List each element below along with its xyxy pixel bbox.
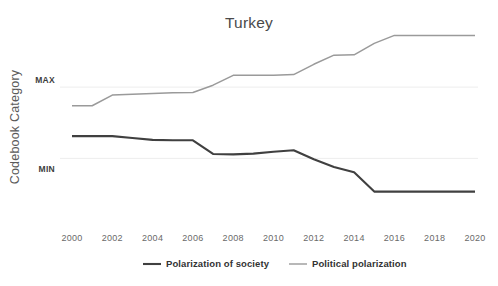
x-tick-label-2008: 2008 [223,233,244,243]
x-tick-label-2004: 2004 [142,233,163,243]
line-chart: MINMAX 200020022004200620082010201220142… [0,0,498,286]
legend-label-political-polarization: Political polarization [312,258,407,269]
x-tick-label-2006: 2006 [182,233,203,243]
x-tick-label-2002: 2002 [102,233,123,243]
x-tick-label-2018: 2018 [424,233,445,243]
x-tick-label-2014: 2014 [343,233,364,243]
x-tick-label-2016: 2016 [384,233,405,243]
chart-background [0,0,498,286]
legend-label-polarization-of-society: Polarization of society [166,258,270,269]
y-tick-label-min: MIN [39,164,55,174]
y-axis-title: Codebook Category [8,69,22,184]
y-tick-label-max: MAX [35,75,55,85]
x-tick-label-2012: 2012 [303,233,324,243]
x-tick-label-2020: 2020 [464,233,485,243]
chart-container: MINMAX 200020022004200620082010201220142… [0,0,498,286]
x-tick-label-2010: 2010 [263,233,284,243]
chart-title: Turkey [225,14,273,31]
x-tick-label-2000: 2000 [61,233,82,243]
